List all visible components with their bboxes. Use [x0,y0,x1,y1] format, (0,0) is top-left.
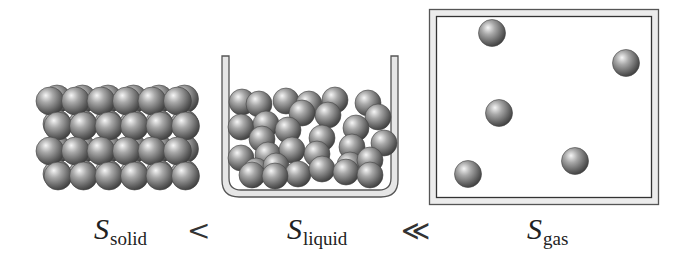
particle-sphere [36,87,64,115]
particle-sphere [479,20,506,47]
particle-sphere [62,87,90,115]
particle-sphere [95,112,123,140]
particle-sphere [113,137,141,165]
label-s-liquid: Sliquid [287,212,347,246]
particle-sphere [138,137,166,165]
particle-sphere [70,162,98,190]
particle-sphere [146,162,174,190]
particle-sphere [285,161,311,187]
particle-sphere [146,112,174,140]
particle-sphere [613,50,640,77]
particle-sphere [315,102,341,128]
particle-sphere [121,162,149,190]
particle-sphere [62,137,90,165]
particle-sphere [87,137,115,165]
particle-sphere [333,159,359,185]
particle-sphere [357,162,383,188]
particle-sphere [486,100,513,127]
label-s-gas: Sgas [527,212,568,246]
particle-sphere [44,112,72,140]
particle-sphere [95,162,123,190]
particle-sphere [121,112,149,140]
particle-sphere [309,156,335,182]
less-than-symbol: < [187,214,210,247]
particle-sphere [562,148,589,175]
particle-sphere [70,112,98,140]
particle-sphere [239,162,265,188]
much-less-than-symbol: ≪ [401,214,430,247]
particle-sphere [172,162,200,190]
particle-sphere [164,87,192,115]
particle-sphere [262,163,288,189]
particle-sphere [172,112,200,140]
particle-sphere [138,87,166,115]
particle-sphere [455,161,482,188]
label-s-solid: Ssolid [94,212,147,246]
particle-sphere [164,137,192,165]
particle-sphere [87,87,115,115]
particle-sphere [44,162,72,190]
particle-sphere [113,87,141,115]
particle-sphere [36,137,64,165]
solid-lattice [36,85,200,190]
liquid-particles [228,87,397,189]
